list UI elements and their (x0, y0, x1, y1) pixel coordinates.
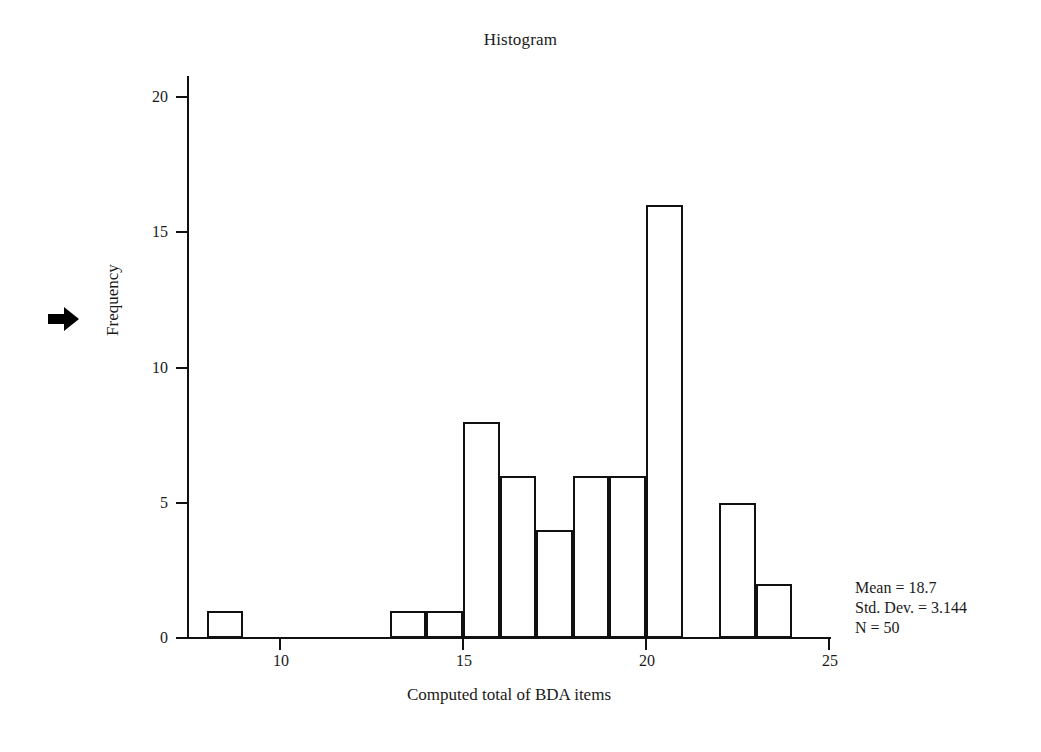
x-axis-tick-label: 15 (434, 653, 494, 669)
histogram-bar (463, 422, 500, 638)
histogram-bar (536, 530, 573, 638)
x-axis-tick-label: 20 (617, 653, 677, 669)
statistics-annotation: Mean = 18.7 Std. Dev. = 3.144 N = 50 (855, 578, 967, 638)
histogram-bar (609, 476, 646, 638)
stat-mean: Mean = 18.7 (855, 578, 967, 598)
y-axis-title: Frequency (103, 230, 123, 370)
x-axis-tick (645, 639, 647, 650)
stat-std-dev: Std. Dev. = 3.144 (855, 598, 967, 618)
bars-layer (0, 0, 1041, 639)
histogram-bar (207, 611, 244, 638)
histogram-bar (573, 476, 610, 638)
x-axis-tick (828, 639, 830, 650)
x-axis-title: Computed total of BDA items (187, 685, 831, 705)
stat-n: N = 50 (855, 618, 967, 638)
histogram-bar (756, 584, 793, 638)
x-axis-tick-label: 25 (800, 653, 860, 669)
histogram-bar (646, 205, 683, 638)
x-axis-tick-label: 10 (251, 653, 311, 669)
histogram-bar (390, 611, 427, 638)
histogram-figure: Histogram 05101520 10152025 Computed tot… (0, 0, 1041, 752)
histogram-bar (500, 476, 537, 638)
histogram-bar (719, 503, 756, 638)
histogram-bar (426, 611, 463, 638)
x-axis-tick (462, 639, 464, 650)
x-axis-tick (279, 639, 281, 650)
